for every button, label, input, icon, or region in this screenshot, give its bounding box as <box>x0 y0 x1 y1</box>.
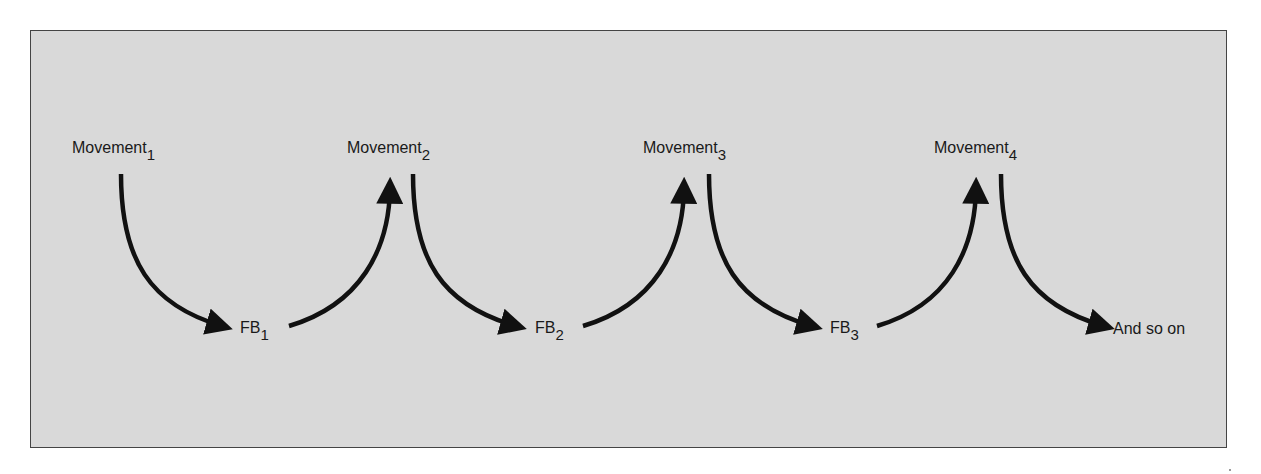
arrow-movement2-to-fb2 <box>413 174 516 326</box>
movement-text: Movement <box>643 139 718 156</box>
scan-speck <box>1229 469 1231 471</box>
movement-subscript: 4 <box>1009 146 1017 163</box>
fb-text: FB <box>240 319 260 336</box>
fb-2-label: FB2 <box>535 320 564 336</box>
movement-text: Movement <box>72 139 147 156</box>
arrow-fb3-to-movement4 <box>877 188 976 326</box>
movement-subscript: 2 <box>422 146 430 163</box>
movement-4-label: Movement4 <box>934 140 1017 156</box>
movement-3-label: Movement3 <box>643 140 726 156</box>
fb-subscript: 3 <box>850 326 858 343</box>
movement-text: Movement <box>934 139 1009 156</box>
arrow-movement3-to-fb3 <box>709 174 812 326</box>
fb-1-label: FB1 <box>240 320 269 336</box>
arrow-movement1-to-fb1 <box>121 174 222 326</box>
fb-text: FB <box>535 319 555 336</box>
movement-subscript: 3 <box>718 146 726 163</box>
movement-text: Movement <box>347 139 422 156</box>
arrow-movement4-to-and-so-on <box>1001 174 1104 326</box>
arrow-fb1-to-movement2 <box>289 188 390 326</box>
arrows-layer <box>0 0 1261 474</box>
fb-subscript: 2 <box>555 326 563 343</box>
movement-1-label: Movement1 <box>72 140 155 156</box>
movement-2-label: Movement2 <box>347 140 430 156</box>
fb-subscript: 1 <box>260 326 268 343</box>
fb-text: FB <box>830 319 850 336</box>
arrow-fb2-to-movement3 <box>583 188 684 326</box>
terminal-text: And so on <box>1113 320 1185 337</box>
movement-subscript: 1 <box>147 146 155 163</box>
fb-3-label: FB3 <box>830 320 859 336</box>
and-so-on-label: And so on <box>1113 321 1185 337</box>
